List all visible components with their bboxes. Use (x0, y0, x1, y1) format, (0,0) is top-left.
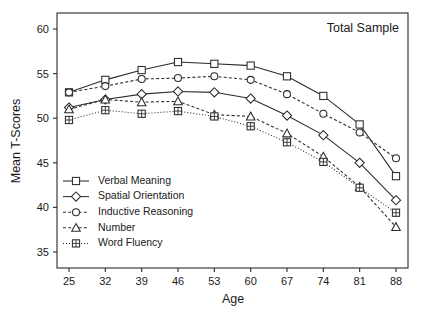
data-point-marker (247, 76, 254, 83)
y-tick-label: 45 (37, 157, 49, 169)
data-point-marker (72, 177, 79, 184)
chart-container: 354045505560 25323946536067748188 Verbal… (0, 0, 424, 329)
data-point-marker (246, 94, 255, 103)
legend-item[interactable]: Spatial Orientation (63, 189, 185, 201)
legend-label: Number (98, 221, 136, 233)
data-point-marker (102, 83, 109, 90)
data-point-marker (210, 88, 219, 97)
x-tick-label: 39 (136, 275, 148, 287)
data-point-marker (66, 89, 73, 96)
data-point-marker (174, 97, 183, 105)
legend-item[interactable]: Verbal Meaning (63, 174, 171, 186)
data-point-marker (174, 58, 181, 65)
panel-title: Total Sample (327, 21, 399, 35)
data-point-marker (392, 173, 399, 180)
legend-item[interactable]: Inductive Reasoning (63, 205, 193, 217)
y-axis-ticks: 354045505560 (37, 23, 57, 258)
data-point-marker (393, 155, 400, 162)
x-tick-label: 32 (99, 275, 111, 287)
data-point-marker (137, 98, 146, 106)
x-tick-label: 81 (354, 275, 366, 287)
legend-label: Word Fluency (98, 236, 163, 248)
data-point-marker (211, 60, 218, 67)
data-point-marker (73, 209, 80, 216)
chart-legend: Verbal MeaningSpatial OrientationInducti… (63, 174, 193, 248)
x-tick-label: 25 (63, 275, 75, 287)
data-point-marker (175, 75, 182, 82)
data-point-marker (247, 62, 254, 69)
y-axis-title: Mean T-Scores (9, 99, 23, 184)
data-point-marker (282, 111, 291, 120)
x-tick-label: 46 (172, 275, 184, 287)
y-tick-label: 35 (37, 246, 49, 258)
legend-item[interactable]: Word Fluency (63, 236, 163, 248)
data-point-marker (138, 66, 145, 73)
x-axis-title: Age (222, 292, 244, 306)
x-tick-label: 60 (245, 275, 257, 287)
y-tick-label: 60 (37, 23, 49, 35)
data-point-marker (320, 92, 327, 99)
y-tick-label: 40 (37, 201, 49, 213)
data-point-marker (173, 87, 182, 96)
data-point-marker (283, 73, 290, 80)
data-point-marker (284, 91, 291, 98)
data-series (66, 73, 400, 162)
data-point-marker (320, 110, 327, 117)
legend-item[interactable]: Number (63, 221, 136, 233)
x-axis-ticks: 25323946536067748188 (63, 268, 402, 287)
line-chart: 354045505560 25323946536067748188 Verbal… (0, 0, 424, 329)
data-point-marker (283, 129, 292, 137)
y-tick-label: 50 (37, 112, 49, 124)
data-point-marker (138, 75, 145, 82)
x-tick-label: 88 (390, 275, 402, 287)
data-point-marker (356, 121, 363, 128)
data-point-marker (356, 129, 363, 136)
data-point-marker (319, 131, 328, 140)
x-tick-label: 67 (281, 275, 293, 287)
legend-label: Spatial Orientation (98, 189, 185, 201)
legend-label: Verbal Meaning (98, 174, 171, 186)
data-point-marker (71, 192, 80, 201)
series-line (69, 76, 396, 158)
data-series (64, 87, 400, 205)
legend-label: Inductive Reasoning (98, 205, 193, 217)
y-tick-label: 55 (37, 68, 49, 80)
series-line (69, 62, 396, 176)
data-point-marker (211, 73, 218, 80)
x-tick-label: 74 (317, 275, 329, 287)
data-series (65, 58, 399, 179)
x-tick-label: 53 (208, 275, 220, 287)
